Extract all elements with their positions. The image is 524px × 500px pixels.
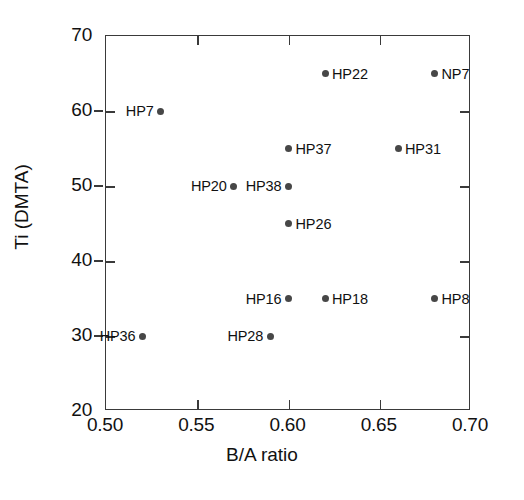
x-axis-tick-label: 0.60	[269, 414, 305, 436]
y-axis-tick	[106, 186, 115, 188]
plot-area: HP22NP7HP7HP37HP31HP20HP38HP26HP16HP18HP…	[105, 35, 470, 410]
data-point-label: NP7	[442, 66, 470, 82]
y-axis-tick-label: 70	[0, 24, 92, 46]
data-point-label: HP28	[227, 328, 263, 344]
data-point[interactable]	[322, 295, 329, 302]
data-point-label: HP20	[191, 178, 227, 194]
data-point-label: HP31	[405, 141, 441, 157]
data-point[interactable]	[285, 295, 292, 302]
x-axis-tick	[289, 400, 291, 409]
data-point-label: HP36	[100, 328, 136, 344]
x-axis-title: B/A ratio	[0, 444, 524, 466]
y-axis-tick-stub	[94, 260, 103, 262]
y-axis-tick-right	[460, 186, 469, 188]
data-point-label: HP38	[246, 178, 282, 194]
y-axis-tick-right	[460, 261, 469, 263]
x-axis-tick	[197, 400, 199, 409]
y-axis-tick-label: 40	[0, 249, 92, 271]
x-axis-tick-top	[380, 36, 382, 45]
data-point[interactable]	[431, 70, 438, 77]
data-point[interactable]	[395, 145, 402, 152]
y-axis-tick-label: 60	[0, 99, 92, 121]
y-axis-title: Ti (DMTA)	[11, 97, 33, 317]
data-point[interactable]	[285, 220, 292, 227]
x-axis-tick-top	[289, 36, 291, 45]
y-axis-tick-label: 50	[0, 174, 92, 196]
y-axis-tick	[106, 261, 115, 263]
data-point[interactable]	[431, 295, 438, 302]
x-axis-tick-label: 0.55	[178, 414, 214, 436]
data-point-label: HP18	[332, 291, 368, 307]
data-point[interactable]	[285, 145, 292, 152]
x-axis-tick-label: 0.65	[361, 414, 397, 436]
y-axis-tick-label: 30	[0, 324, 92, 346]
y-axis-tick-label: 20	[0, 399, 92, 421]
y-axis-tick-right	[460, 336, 469, 338]
data-point[interactable]	[322, 70, 329, 77]
y-axis-tick-stub	[94, 110, 103, 112]
scatter-plot-figure: Ti (DMTA) 203040506070 HP22NP7HP7HP37HP3…	[0, 0, 524, 500]
data-point[interactable]	[139, 333, 146, 340]
data-point-label: HP8	[442, 291, 470, 307]
y-axis-tick	[106, 111, 115, 113]
data-point-label: HP26	[296, 216, 332, 232]
x-axis-tick	[380, 400, 382, 409]
data-point[interactable]	[157, 108, 164, 115]
data-point-label: HP7	[126, 103, 154, 119]
data-point[interactable]	[285, 183, 292, 190]
x-axis-tick-label: 0.70	[452, 414, 488, 436]
data-point[interactable]	[267, 333, 274, 340]
data-point-label: HP22	[332, 66, 368, 82]
data-point-label: HP37	[296, 141, 332, 157]
data-point[interactable]	[230, 183, 237, 190]
y-axis-tick-right	[460, 111, 469, 113]
data-point-label: HP16	[246, 291, 282, 307]
y-axis-tick-stub	[94, 185, 103, 187]
x-axis-tick-label: 0.50	[87, 414, 123, 436]
x-axis-tick-top	[197, 36, 199, 45]
